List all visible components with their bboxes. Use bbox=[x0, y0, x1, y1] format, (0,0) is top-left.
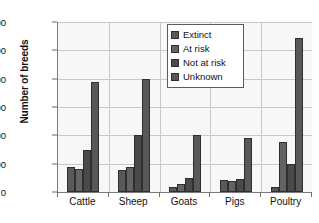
x-tick-mark bbox=[311, 192, 312, 197]
y-tick-label: 200 bbox=[0, 158, 6, 169]
bar bbox=[67, 167, 75, 193]
x-tick-mark bbox=[159, 192, 160, 197]
bar-chart: Number of breeds 02004006008001,0001,200… bbox=[0, 0, 319, 223]
bar bbox=[118, 170, 126, 192]
bar bbox=[177, 184, 185, 193]
x-tick-label: Poultry bbox=[270, 196, 301, 207]
legend-label: Unknown bbox=[183, 72, 223, 82]
x-tick-mark bbox=[108, 192, 109, 197]
bar bbox=[193, 135, 201, 192]
bar bbox=[287, 164, 295, 192]
legend-label: At risk bbox=[183, 44, 209, 54]
x-tick-mark bbox=[209, 192, 210, 197]
x-tick-mark bbox=[260, 192, 261, 197]
bar bbox=[169, 187, 177, 192]
group-separator bbox=[160, 22, 161, 192]
legend-swatch-icon bbox=[171, 59, 179, 67]
y-tick-label: 1,000 bbox=[0, 45, 6, 56]
legend-swatch-icon bbox=[171, 45, 179, 53]
x-tick-label: Goats bbox=[171, 196, 198, 207]
bar bbox=[271, 187, 279, 192]
y-tick-label: 1,200 bbox=[0, 17, 6, 28]
bar bbox=[83, 150, 91, 193]
legend-item[interactable]: Unknown bbox=[171, 70, 239, 84]
x-tick-mark bbox=[57, 192, 58, 197]
legend-label: Not at risk bbox=[183, 58, 226, 68]
y-tick-label: 400 bbox=[0, 130, 6, 141]
bar bbox=[220, 180, 228, 192]
bar bbox=[185, 178, 193, 192]
x-tick-label: Pigs bbox=[225, 196, 244, 207]
x-tick-label: Sheep bbox=[119, 196, 148, 207]
legend-swatch-icon bbox=[171, 31, 179, 39]
y-tick-label: 800 bbox=[0, 73, 6, 84]
group-separator bbox=[261, 22, 262, 192]
bar bbox=[295, 38, 303, 192]
legend-swatch-icon bbox=[171, 73, 179, 81]
bar bbox=[75, 169, 83, 192]
bar bbox=[134, 135, 142, 192]
bar bbox=[244, 138, 252, 192]
bar bbox=[228, 181, 236, 192]
gridline bbox=[58, 22, 312, 23]
legend-item[interactable]: Not at risk bbox=[171, 56, 239, 70]
legend-item[interactable]: At risk bbox=[171, 42, 239, 56]
y-tick-label: 600 bbox=[0, 102, 6, 113]
group-separator bbox=[109, 22, 110, 192]
bar bbox=[236, 179, 244, 192]
legend: ExtinctAt riskNot at riskUnknown bbox=[167, 24, 244, 88]
x-tick-label: Cattle bbox=[69, 196, 95, 207]
legend-item[interactable]: Extinct bbox=[171, 28, 239, 42]
bar bbox=[279, 142, 287, 192]
bar bbox=[91, 82, 99, 192]
bar bbox=[142, 79, 150, 192]
y-tick-label: 0 bbox=[0, 187, 6, 198]
legend-label: Extinct bbox=[183, 30, 212, 40]
y-axis-title: Number of breeds bbox=[19, 12, 30, 152]
bar bbox=[126, 167, 134, 193]
